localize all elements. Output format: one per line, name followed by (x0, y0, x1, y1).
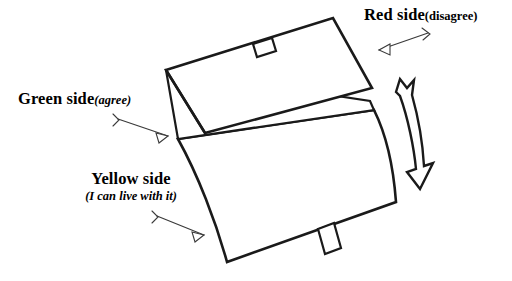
label-red-side-main: Red side (364, 5, 425, 24)
bottom-edge-tab (318, 223, 341, 254)
label-yellow-side-sub: (I can live with it) (56, 189, 206, 203)
card-illustration (0, 0, 512, 281)
label-red-side-sub: (disagree) (425, 9, 478, 23)
diagram-canvas: Red side(disagree) Green side(agree) Yel… (0, 0, 512, 281)
label-green-side-sub: (agree) (94, 93, 131, 107)
leader-arrow-to-red-side (379, 28, 430, 55)
label-green-side-main: Green side (18, 89, 94, 108)
label-red-side: Red side(disagree) (364, 6, 477, 24)
label-green-side: Green side(agree) (18, 90, 131, 108)
label-yellow-side: Yellow side (I can live with it) (56, 170, 206, 203)
leader-arrow-to-yellow-side (152, 211, 204, 242)
label-yellow-side-main: Yellow side (91, 169, 170, 188)
leader-arrow-to-green-side (113, 114, 168, 143)
double-headed-curved-arrow (396, 79, 433, 189)
